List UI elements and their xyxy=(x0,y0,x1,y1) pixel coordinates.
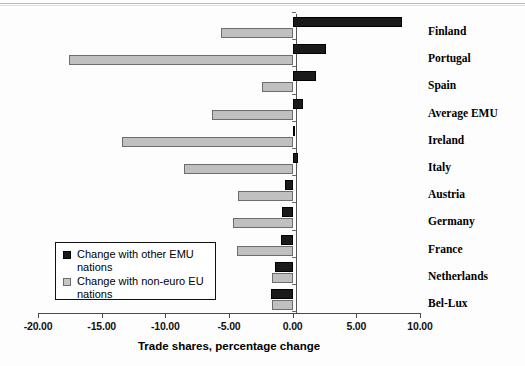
x-tick xyxy=(420,313,421,318)
category-label-bel-lux: Bel-Lux xyxy=(428,297,468,309)
bar-spain-non-euro xyxy=(262,82,293,92)
x-tick-label: -20.00 xyxy=(8,320,68,332)
legend-swatch-black-square xyxy=(63,251,71,259)
bar-germany-emu xyxy=(282,207,292,217)
legend-label-non-euro: Change with non-euro EU nations xyxy=(77,275,209,300)
category-label-austria: Austria xyxy=(428,188,465,200)
chart-legend: Change with other EMU nations Change wit… xyxy=(55,242,216,300)
bar-bel-lux-emu xyxy=(271,289,293,299)
bar-ireland-emu xyxy=(293,126,295,136)
y-axis-tick xyxy=(292,202,296,203)
x-tick xyxy=(38,313,39,318)
bar-austria-emu xyxy=(285,180,293,190)
bar-netherlands-non-euro xyxy=(272,273,292,283)
bar-france-non-euro xyxy=(237,246,293,256)
y-axis-tick xyxy=(292,148,296,149)
category-label-average-emu: Average EMU xyxy=(428,107,498,119)
bar-average-emu-emu xyxy=(293,99,303,109)
y-axis-tick xyxy=(292,94,296,95)
bar-finland-emu xyxy=(293,17,403,27)
x-tick xyxy=(356,313,357,318)
bar-germany-non-euro xyxy=(233,218,292,228)
bar-france-emu xyxy=(281,235,292,245)
bar-ireland-non-euro xyxy=(122,137,293,147)
x-tick-label: -15.00 xyxy=(72,320,132,332)
category-label-netherlands: Netherlands xyxy=(428,270,488,282)
bar-chart: -20.00-15.00-10.00-5.000.005.0010.00 Fin… xyxy=(0,0,525,366)
bar-italy-non-euro xyxy=(184,164,292,174)
bar-netherlands-emu xyxy=(275,262,293,272)
bar-average-emu-non-euro xyxy=(212,110,292,120)
y-axis-tick xyxy=(292,175,296,176)
x-tick xyxy=(293,313,294,318)
y-axis-tick xyxy=(292,121,296,122)
x-tick-label: 5.00 xyxy=(326,320,386,332)
bar-spain-emu xyxy=(293,71,316,81)
x-tick-label: -10.00 xyxy=(135,320,195,332)
legend-item-emu: Change with other EMU nations xyxy=(63,248,215,273)
x-tick-label: -5.00 xyxy=(199,320,259,332)
bar-portugal-non-euro xyxy=(69,55,293,65)
category-label-finland: Finland xyxy=(428,25,466,37)
category-label-ireland: Ireland xyxy=(428,134,464,146)
scan-artifact-rule xyxy=(0,3,525,4)
y-axis-tick xyxy=(292,39,296,40)
bar-finland-non-euro xyxy=(221,28,292,38)
y-axis-tick xyxy=(292,66,296,67)
y-axis-tick xyxy=(292,12,296,13)
bar-portugal-emu xyxy=(293,44,326,54)
x-tick xyxy=(102,313,103,318)
zero-baseline xyxy=(296,14,297,313)
category-label-portugal: Portugal xyxy=(428,52,471,64)
category-label-germany: Germany xyxy=(428,215,475,227)
x-tick xyxy=(165,313,166,318)
legend-label-emu: Change with other EMU nations xyxy=(77,248,209,273)
y-axis-tick xyxy=(292,230,296,231)
x-axis-title: Trade shares, percentage change xyxy=(38,340,420,352)
category-label-spain: Spain xyxy=(428,79,456,91)
legend-swatch-gray-square xyxy=(63,278,71,286)
y-axis-tick xyxy=(292,257,296,258)
bar-austria-non-euro xyxy=(238,191,293,201)
x-tick-label: 10.00 xyxy=(390,320,450,332)
x-tick xyxy=(229,313,230,318)
category-label-france: France xyxy=(428,243,462,255)
x-tick-label: 0.00 xyxy=(263,320,323,332)
scan-artifact-rule-secondary xyxy=(0,5,525,6)
legend-item-non-euro: Change with non-euro EU nations xyxy=(63,275,215,300)
bar-bel-lux-non-euro xyxy=(272,300,292,310)
category-label-italy: Italy xyxy=(428,161,451,173)
bar-italy-emu xyxy=(293,153,298,163)
y-axis-tick xyxy=(292,284,296,285)
